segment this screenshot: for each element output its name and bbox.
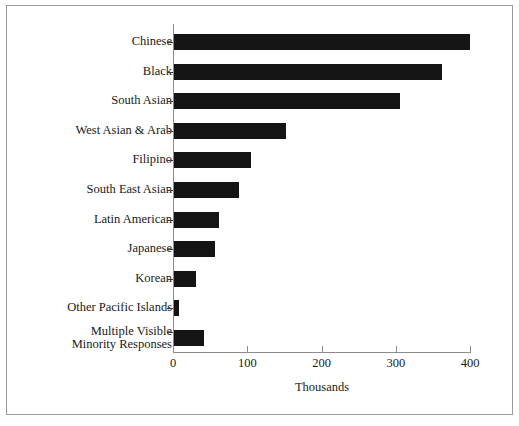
category-label: Latin American [94,213,172,226]
category-axis-tick [167,308,173,309]
category-label-line: Other Pacific Islands [67,300,172,314]
x-axis-tick [247,346,248,353]
category-label: South East Asian [87,183,172,196]
category-axis-tick [167,131,173,132]
category-label: South Asian [111,94,172,107]
category-label-line: South Asian [111,93,172,107]
category-label-line: Black [143,64,172,78]
category-axis-tick [167,220,173,221]
x-axis-tick [173,346,174,353]
category-label-line: Multiple Visible [91,324,172,338]
category-axis-tick [167,279,173,280]
x-axis-tick-label: 300 [386,356,405,371]
x-axis-tick [322,346,323,353]
category-label: Chinese [132,35,172,48]
bar [174,300,179,316]
category-label: West Asian & Arab [75,124,172,137]
category-label-line: Chinese [132,34,172,48]
x-axis-tick-label: 400 [461,356,480,371]
category-label-line: Latin American [94,212,172,226]
bar [174,182,239,198]
bar [174,330,204,346]
category-axis-tick [167,160,173,161]
bar-chart-plot-area: 0100200300400 ChineseBlackSouth AsianWes… [7,6,514,416]
category-label-line: Korean [135,271,172,285]
bar [174,152,251,168]
category-label-line: South East Asian [87,182,172,196]
x-axis-tick-label: 100 [238,356,257,371]
x-axis-tick [396,346,397,353]
category-label: Japanese [128,242,172,255]
x-axis-tick-label: 0 [170,356,176,371]
x-axis-tick [470,346,471,353]
figure-frame: 0100200300400 ChineseBlackSouth AsianWes… [6,5,513,415]
category-label: Multiple VisibleMinority Responses [72,325,172,351]
bar [174,212,219,228]
x-axis-title: Thousands [173,380,471,395]
category-axis-tick [167,101,173,102]
category-label: Other Pacific Islands [67,301,172,314]
bar [174,123,286,139]
bar [174,241,215,257]
category-axis-tick [167,42,173,43]
x-axis-tick-label: 200 [312,356,331,371]
bar [174,271,196,287]
category-label-line: West Asian & Arab [75,123,172,137]
category-label-line: Minority Responses [72,338,172,351]
bar [174,93,400,109]
category-label-line: Filipino [132,152,172,166]
category-axis-tick [167,190,173,191]
category-label-line: Japanese [128,241,172,255]
category-axis-tick [167,332,173,333]
category-axis-tick [167,249,173,250]
category-axis-tick [167,72,173,73]
bar [174,34,470,50]
bar [174,64,442,80]
